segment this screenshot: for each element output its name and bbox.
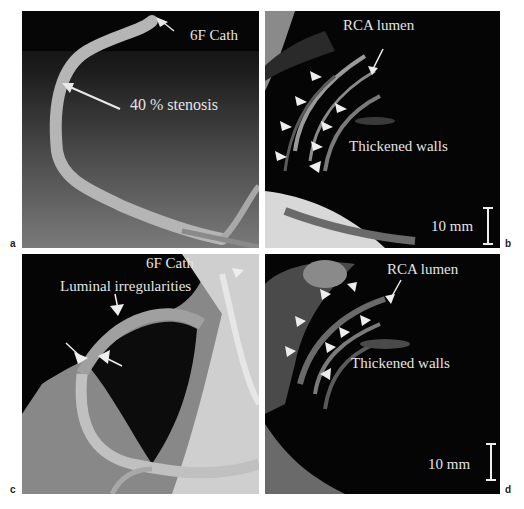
panel-label-c: c bbox=[10, 484, 16, 495]
annotation-stenosis: 40 % stenosis bbox=[130, 97, 218, 113]
panel-b-mri: RCA lumen Thickened walls 10 mm bbox=[265, 11, 500, 248]
annotation-rca-lumen: RCA lumen bbox=[387, 262, 458, 277]
annotation-scale: 10 mm bbox=[428, 457, 470, 472]
panel-label-d: d bbox=[505, 484, 511, 495]
annotation-scale: 10 mm bbox=[431, 219, 473, 234]
annotation-6f-cath: 6F Cath bbox=[190, 28, 238, 43]
mri-image bbox=[265, 11, 500, 248]
panel-c-angiogram: 6F Cath Luminal irregularities bbox=[22, 254, 259, 494]
annotation-6f-cath: 6F Cath bbox=[146, 256, 194, 271]
panel-label-b: b bbox=[505, 238, 511, 249]
panel-label-a: a bbox=[10, 238, 16, 249]
panel-a-angiogram: 6F Cath 40 % stenosis bbox=[22, 11, 259, 248]
angiogram-image bbox=[22, 11, 259, 248]
panel-d-mri: RCA lumen Thickened walls 10 mm bbox=[265, 254, 500, 494]
annotation-luminal-irregularities: Luminal irregularities bbox=[60, 279, 191, 294]
annotation-rca-lumen: RCA lumen bbox=[343, 18, 414, 33]
annotation-thickened-walls: Thickened walls bbox=[351, 356, 450, 371]
annotation-thickened-walls: Thickened walls bbox=[349, 139, 448, 154]
